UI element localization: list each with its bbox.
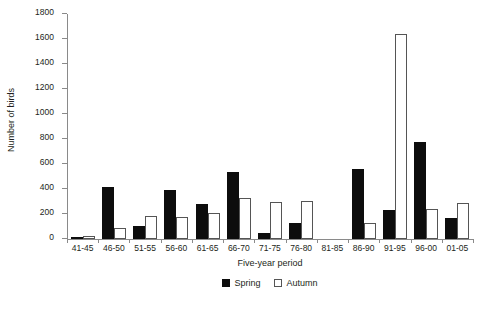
bar-spring-76-80 [289, 223, 301, 239]
x-axis-tick-label: 46-50 [98, 243, 129, 253]
bar-spring-71-75 [258, 233, 270, 239]
legend-swatch-autumn-icon [274, 279, 282, 287]
bar-spring-96-00 [414, 142, 426, 240]
legend-item-autumn: Autumn [274, 278, 317, 288]
bar-spring-86-90 [352, 169, 364, 239]
bar-group: 51-55 [129, 14, 160, 239]
x-axis-tick-label: 61-65 [192, 243, 223, 253]
bar-group: 71-75 [254, 14, 285, 239]
bar-group: 66-70 [223, 14, 254, 239]
bar-spring-46-50 [102, 187, 114, 239]
chart-page: Number of birds 020040060080010001200140… [0, 0, 486, 314]
y-axis-tick-label: 1000 [24, 107, 54, 117]
bar-spring-56-60 [164, 190, 176, 239]
legend-swatch-spring-icon [222, 279, 230, 287]
bar-autumn-61-65 [208, 213, 220, 239]
bar-group: 41-45 [67, 14, 98, 239]
bar-group: 91-95 [379, 14, 410, 239]
y-axis-tick-label: 600 [24, 157, 54, 167]
bar-autumn-01-05 [457, 203, 469, 239]
legend-item-spring: Spring [222, 278, 260, 288]
bar-autumn-51-55 [145, 216, 157, 239]
plot-area: 020040060080010001200140016001800 41-454… [67, 14, 473, 239]
y-axis-tick-label: 800 [24, 132, 54, 142]
x-axis-tick-label: 96-00 [411, 243, 442, 253]
bar-spring-66-70 [227, 172, 239, 239]
bar-autumn-41-45 [83, 236, 95, 239]
bar-group: 46-50 [98, 14, 129, 239]
bar-group: 01-05 [442, 14, 473, 239]
x-axis-tick-label: 81-85 [317, 243, 348, 253]
y-axis-title: Number of birds [2, 0, 20, 240]
bar-autumn-91-95 [395, 34, 407, 239]
y-axis-tick-label: 1400 [24, 57, 54, 67]
bar-spring-51-55 [133, 226, 145, 239]
x-axis-tick-label: 56-60 [161, 243, 192, 253]
y-axis-tick-label: 200 [24, 207, 54, 217]
x-axis-tick-label: 86-90 [348, 243, 379, 253]
bar-spring-41-45 [71, 237, 83, 239]
y-axis-tick-label: 0 [24, 232, 54, 242]
bar-autumn-96-00 [426, 209, 438, 239]
legend-label: Spring [234, 278, 260, 288]
x-axis-tick-label: 71-75 [254, 243, 285, 253]
bar-group: 86-90 [348, 14, 379, 239]
legend-label: Autumn [286, 278, 317, 288]
y-axis-tick-label: 1800 [24, 7, 54, 17]
x-axis-tick-label: 66-70 [223, 243, 254, 253]
bar-autumn-71-75 [270, 202, 282, 240]
x-axis-tick-label: 41-45 [67, 243, 98, 253]
x-axis-line [67, 239, 473, 240]
bar-autumn-46-50 [114, 228, 126, 239]
bar-spring-01-05 [445, 218, 457, 239]
y-axis-tick-label: 400 [24, 182, 54, 192]
bar-spring-61-65 [196, 204, 208, 239]
chart-legend: SpringAutumn [67, 278, 473, 288]
y-axis-tick-label: 1600 [24, 32, 54, 42]
y-axis-tick-label: 1200 [24, 82, 54, 92]
bar-group: 61-65 [192, 14, 223, 239]
bar-group: 96-00 [411, 14, 442, 239]
bar-group: 56-60 [161, 14, 192, 239]
bar-group: 81-85 [317, 14, 348, 239]
x-axis-tick-label: 51-55 [129, 243, 160, 253]
x-axis-tick [473, 239, 474, 243]
x-axis-tick-label: 91-95 [379, 243, 410, 253]
bar-autumn-86-90 [364, 223, 376, 239]
bar-group: 76-80 [286, 14, 317, 239]
x-axis-tick-label: 01-05 [442, 243, 473, 253]
bar-autumn-66-70 [239, 198, 251, 239]
bar-autumn-76-80 [301, 201, 313, 239]
x-axis-title: Five-year period [67, 258, 473, 268]
bar-autumn-56-60 [176, 217, 188, 239]
y-axis-title-text: Number of birds [6, 88, 16, 152]
bar-spring-91-95 [383, 210, 395, 239]
x-axis-tick-label: 76-80 [286, 243, 317, 253]
